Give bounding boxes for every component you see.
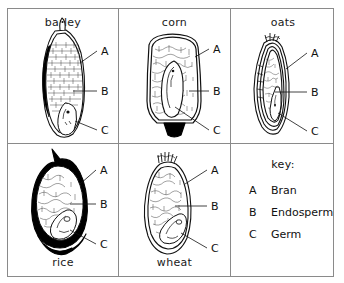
key-letter-c: C <box>249 228 271 241</box>
rice-figure: A B C <box>8 144 118 277</box>
label-b-rice: B <box>100 198 108 211</box>
grain-grid: barley <box>7 8 334 277</box>
cell-barley: barley <box>8 9 118 143</box>
key-label-bran: Bran <box>271 184 297 197</box>
leader-a <box>286 53 307 69</box>
key-letter-a: A <box>249 184 271 197</box>
cell-key: key: A Bran B Endosperm C Germ <box>231 144 335 277</box>
label-b-oats: B <box>311 86 319 99</box>
key-label-endosperm: Endosperm <box>271 206 333 219</box>
label-c-wheat: C <box>211 242 219 255</box>
key-panel: key: A Bran B Endosperm C Germ <box>231 144 335 277</box>
corn-figure: A B C <box>119 9 230 143</box>
label-c-oats: C <box>311 125 319 138</box>
wheat-figure: A B C <box>119 144 230 277</box>
key-entry-a: A Bran <box>249 184 333 197</box>
cell-wheat: wheat <box>119 144 230 277</box>
label-a-oats: A <box>311 47 319 60</box>
leader-a <box>185 170 207 184</box>
label-b-barley: B <box>101 85 109 98</box>
cell-corn: corn <box>119 9 230 143</box>
oats-figure: A B C <box>231 9 335 143</box>
diagram-sheet: barley <box>0 0 344 283</box>
key-entry-b: B Endosperm <box>249 206 333 219</box>
label-a-wheat: A <box>211 164 219 177</box>
key-entry-c: C Germ <box>249 228 333 241</box>
label-b-wheat: B <box>211 200 219 213</box>
label-c-corn: C <box>213 124 221 137</box>
label-a-corn: A <box>213 43 221 56</box>
leader-a <box>80 51 97 63</box>
key-label-germ: Germ <box>271 228 301 241</box>
key-title: key: <box>231 158 335 171</box>
label-c-barley: C <box>101 124 109 137</box>
cell-oats: oats <box>231 9 335 143</box>
cell-rice: rice <box>8 144 118 277</box>
barley-figure: A B C <box>8 9 118 143</box>
label-c-rice: C <box>100 238 108 251</box>
key-entry-list: A Bran B Endosperm C Germ <box>249 184 333 250</box>
label-a-rice: A <box>100 164 108 177</box>
key-letter-b: B <box>249 206 271 219</box>
label-a-barley: A <box>101 45 109 58</box>
label-b-corn: B <box>213 85 221 98</box>
